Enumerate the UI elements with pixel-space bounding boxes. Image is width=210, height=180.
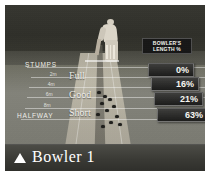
stat-panel-heading: BOWLER'S LENGTH % bbox=[142, 38, 192, 54]
ball-mark bbox=[112, 105, 116, 108]
screenshot-root: STUMPS 2m 4m 6m 8m HALFWAY Full Good Sho… bbox=[0, 0, 210, 180]
ball-mark bbox=[100, 102, 104, 105]
ball-mark bbox=[96, 113, 100, 116]
length-zone-full: Full bbox=[69, 70, 85, 81]
distance-marker-stumps: STUMPS bbox=[25, 61, 77, 68]
length-zone-good: Good bbox=[69, 89, 91, 100]
stumps-far bbox=[106, 45, 115, 59]
ball-mark bbox=[101, 125, 105, 128]
stat-panel-heading-line2: LENGTH % bbox=[145, 46, 189, 52]
distance-marker-8m: 8m bbox=[25, 102, 51, 108]
triangle-up-icon bbox=[14, 153, 26, 163]
ball-mark bbox=[108, 98, 112, 101]
stat-value-yorker: 0% bbox=[148, 63, 194, 77]
stat-value-full: 16% bbox=[151, 77, 199, 91]
distance-marker-4m: 4m bbox=[29, 81, 55, 87]
bowler-name-label: Bowler 1 bbox=[32, 148, 95, 166]
ball-mark bbox=[109, 121, 113, 124]
stat-value-short: 63% bbox=[157, 108, 205, 122]
crease-line-far bbox=[85, 60, 119, 62]
broadcast-video-frame: STUMPS 2m 4m 6m 8m HALFWAY Full Good Sho… bbox=[5, 5, 205, 171]
length-zone-short: Short bbox=[69, 107, 91, 118]
bowler-banner: Bowler 1 bbox=[5, 144, 205, 171]
ball-mark bbox=[105, 109, 109, 112]
distance-marker-halfway: HALFWAY bbox=[17, 112, 69, 119]
ball-mark bbox=[115, 115, 119, 118]
ball-mark bbox=[118, 123, 122, 126]
ball-mark bbox=[97, 91, 101, 94]
distance-marker-6m: 6m bbox=[27, 91, 53, 97]
stat-value-good: 21% bbox=[154, 92, 203, 106]
ball-mark bbox=[103, 95, 107, 98]
distance-marker-2m: 2m bbox=[31, 71, 57, 77]
